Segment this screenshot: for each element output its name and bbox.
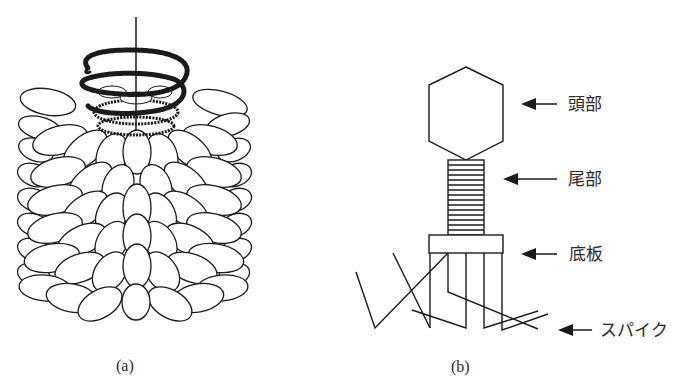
- phage-tail-fibers: [356, 253, 548, 330]
- panel-b-phage-drawing: [356, 67, 548, 330]
- label-head: 頭部: [568, 94, 602, 114]
- label-baseplate: 底板: [569, 244, 603, 264]
- label-arrows: [503, 98, 592, 336]
- label-spike: スパイク: [600, 320, 668, 340]
- caption-panel-b: (b): [451, 358, 470, 376]
- phage-tail-sheath: [448, 160, 484, 235]
- panel-a-virus-drawing: [14, 17, 255, 328]
- label-tail: 尾部: [568, 169, 602, 189]
- arrow-baseplate-label: [521, 248, 557, 260]
- arrow-spike-label: [558, 324, 592, 336]
- protein-subunit-rows: [14, 84, 255, 328]
- phage-baseplate: [429, 235, 503, 253]
- phage-head-hexagon: [429, 67, 503, 160]
- figure-canvas: [0, 0, 677, 387]
- caption-panel-a: (a): [116, 357, 134, 375]
- arrow-tail-label: [503, 173, 557, 185]
- arrow-head-label: [521, 98, 557, 110]
